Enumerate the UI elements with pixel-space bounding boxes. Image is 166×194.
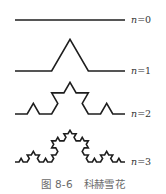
- level-value: =1: [137, 65, 151, 76]
- koch-curve-n1: [15, 39, 125, 71]
- level-label-n1: n=1: [131, 66, 151, 76]
- level-value: =3: [137, 156, 151, 167]
- level-label-n3: n=3: [131, 157, 151, 167]
- level-label-n2: n=2: [131, 109, 151, 119]
- figure-caption: 图 8-6 科赫雪花: [0, 176, 166, 191]
- koch-curve-n2: [15, 82, 125, 114]
- koch-snowflake-figure: n=0 n=1 n=2 n=3 图 8-6 科赫雪花: [0, 0, 166, 194]
- level-label-n0: n=0: [131, 15, 151, 25]
- level-value: =2: [137, 108, 151, 119]
- koch-curve-n3: [15, 130, 125, 162]
- level-value: =0: [137, 14, 151, 25]
